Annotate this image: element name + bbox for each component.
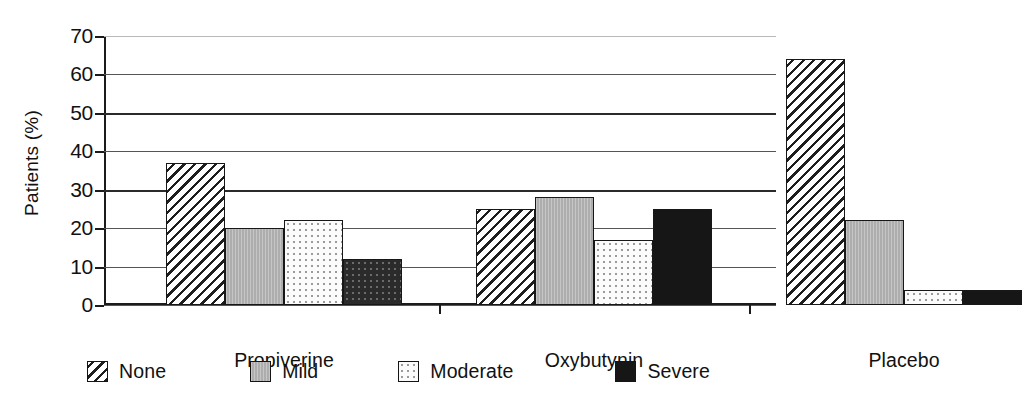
y-tick-label: 40 bbox=[70, 139, 93, 163]
white-dotted-swatch bbox=[398, 361, 419, 382]
y-tick-label: 20 bbox=[70, 216, 93, 240]
legend-label: Mild bbox=[282, 360, 318, 383]
bar-oxybutynin-severe bbox=[653, 209, 712, 305]
gridline-70 bbox=[104, 36, 776, 37]
bar-oxybutynin-mild bbox=[535, 197, 594, 305]
bar-propiverine-none bbox=[166, 163, 225, 305]
x-axis-group-tick bbox=[749, 305, 751, 314]
y-tick-mark-10 bbox=[95, 267, 104, 269]
y-tick-mark-50 bbox=[95, 113, 104, 115]
bar-placebo-severe bbox=[963, 290, 1022, 305]
y-tick-mark-30 bbox=[95, 190, 104, 192]
y-tick-label: 30 bbox=[70, 178, 93, 202]
bar-oxybutynin-none bbox=[476, 209, 535, 305]
y-tick-label: 60 bbox=[70, 62, 93, 86]
chart-legend: NoneMildModerateSevere bbox=[0, 360, 797, 383]
y-tick-mark-60 bbox=[95, 74, 104, 76]
bar-placebo-moderate bbox=[904, 290, 963, 305]
legend-item-none[interactable]: None bbox=[87, 360, 166, 383]
x-axis-group-tick bbox=[439, 305, 441, 314]
bar-propiverine-severe bbox=[343, 259, 402, 305]
bar-propiverine-moderate bbox=[284, 220, 343, 305]
black-swatch bbox=[615, 361, 636, 382]
bar-oxybutynin-moderate bbox=[594, 240, 653, 305]
y-tick-label: 70 bbox=[70, 24, 93, 48]
y-tick-mark-40 bbox=[95, 151, 104, 153]
gray-swatch bbox=[250, 361, 271, 382]
legend-label: Moderate bbox=[430, 360, 513, 383]
bar-placebo-mild bbox=[845, 220, 904, 305]
y-tick-label: 50 bbox=[70, 101, 93, 125]
y-axis-title: Patients (%) bbox=[21, 73, 43, 253]
y-tick-label: 10 bbox=[70, 255, 93, 279]
y-tick-mark-70 bbox=[95, 36, 104, 38]
bar-propiverine-mild bbox=[225, 228, 284, 305]
legend-label: Severe bbox=[647, 360, 709, 383]
legend-item-moderate[interactable]: Moderate bbox=[398, 360, 513, 383]
y-axis-line bbox=[104, 36, 106, 305]
diagonal-hatch-swatch bbox=[87, 361, 108, 382]
gridline-50 bbox=[104, 113, 776, 115]
legend-item-mild[interactable]: Mild bbox=[250, 360, 318, 383]
gridline-60 bbox=[104, 74, 776, 75]
y-tick-mark-0 bbox=[95, 305, 104, 307]
x-axis-label-placebo: Placebo bbox=[868, 349, 939, 372]
gridline-40 bbox=[104, 151, 776, 152]
plot-area: 706050403020100 PropiverineOxybutyninPla… bbox=[104, 36, 776, 305]
y-tick-label: 0 bbox=[82, 293, 93, 317]
bar-placebo-none bbox=[786, 59, 845, 305]
legend-item-severe[interactable]: Severe bbox=[615, 360, 709, 383]
legend-label: None bbox=[119, 360, 166, 383]
y-tick-mark-20 bbox=[95, 228, 104, 230]
